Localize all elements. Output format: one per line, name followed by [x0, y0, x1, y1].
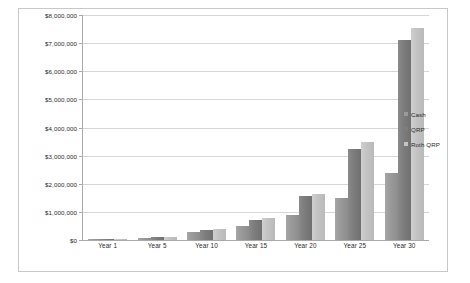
x-axis-tick-label: Year 1 [83, 242, 132, 249]
y-axis-tick-mark [79, 99, 83, 100]
legend-label: QRP [411, 126, 425, 133]
x-axis-tick-label: Year 10 [182, 242, 231, 249]
bar-roth-qrp [361, 142, 374, 240]
bar-roth-qrp [114, 239, 127, 240]
y-axis-tick-label: $5,000,000 [45, 96, 77, 103]
bar-cash [88, 239, 101, 240]
legend-label: Roth QRP [411, 141, 440, 148]
chart-legend: CashQRPRoth QRP [404, 110, 448, 155]
bar-cash [236, 226, 249, 240]
legend-swatch-icon [404, 127, 408, 131]
bar-group [182, 15, 231, 240]
x-axis-label-group: Year 1Year 5Year 10Year 15Year 20Year 25… [83, 242, 429, 249]
y-axis-tick-mark [79, 156, 83, 157]
gridline [83, 240, 429, 241]
plot-area [83, 15, 429, 240]
bar-group [330, 15, 379, 240]
y-axis-tick-mark [79, 128, 83, 129]
bar-group [83, 15, 132, 240]
y-axis-label-group: $0$1,000,000$2,000,000$3,000,000$4,000,0… [19, 9, 81, 271]
bar-qrp [348, 149, 361, 240]
legend-item-qrp[interactable]: QRP [404, 125, 448, 133]
legend-swatch-icon [404, 112, 408, 116]
bar-group [132, 15, 181, 240]
y-axis-tick-label: $1,000,000 [45, 208, 77, 215]
bar-cash [335, 198, 348, 240]
bar-roth-qrp [164, 237, 177, 240]
bar-cash [138, 238, 151, 240]
bar-roth-qrp [312, 194, 325, 240]
y-axis-tick-label: $0 [70, 237, 77, 244]
y-axis-tick-label: $7,000,000 [45, 40, 77, 47]
bar-roth-qrp [213, 229, 226, 240]
bar-cash [187, 232, 200, 240]
x-axis-tick-label: Year 5 [132, 242, 181, 249]
bar-qrp [249, 220, 262, 240]
x-axis-tick-label: Year 15 [231, 242, 280, 249]
bar-qrp [101, 239, 114, 240]
legend-swatch-icon [404, 142, 408, 146]
bar-group-container [83, 15, 429, 240]
y-axis-tick-label: $8,000,000 [45, 12, 77, 19]
legend-item-cash[interactable]: Cash [404, 110, 448, 118]
y-axis-tick-mark [79, 212, 83, 213]
bar-group [231, 15, 280, 240]
legend-label: Cash [411, 111, 426, 118]
x-axis-tick-label: Year 20 [281, 242, 330, 249]
y-axis-tick-label: $3,000,000 [45, 152, 77, 159]
chart-plot-wrapper: $0$1,000,000$2,000,000$3,000,000$4,000,0… [19, 9, 447, 271]
y-axis-tick-mark [79, 71, 83, 72]
bar-roth-qrp [262, 218, 275, 240]
bar-qrp [299, 196, 312, 240]
y-axis-tick-mark [79, 240, 83, 241]
legend-item-roth-qrp[interactable]: Roth QRP [404, 140, 448, 148]
y-axis-tick-mark [79, 43, 83, 44]
bar-cash [385, 173, 398, 240]
x-axis-tick-label: Year 30 [380, 242, 429, 249]
bar-cash [286, 215, 299, 240]
y-axis-tick-label: $4,000,000 [45, 124, 77, 131]
y-axis-tick-label: $2,000,000 [45, 180, 77, 187]
chart-frame: $0$1,000,000$2,000,000$3,000,000$4,000,0… [18, 8, 448, 272]
y-axis-tick-mark [79, 184, 83, 185]
y-axis-tick-label: $6,000,000 [45, 68, 77, 75]
bar-group [281, 15, 330, 240]
y-axis-tick-mark [79, 15, 83, 16]
x-axis-tick-label: Year 25 [330, 242, 379, 249]
bar-qrp [151, 237, 164, 240]
bar-qrp [200, 230, 213, 240]
